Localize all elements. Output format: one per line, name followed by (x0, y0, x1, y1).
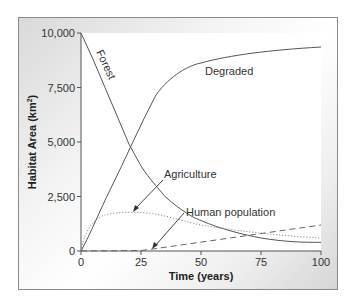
y-tick-label: 10,000 (41, 27, 75, 39)
y-tick-label: 2,500 (47, 191, 75, 203)
x-ticks: 0 25 50 75 100 (78, 251, 330, 268)
x-tick-label: 0 (78, 256, 84, 268)
y-tick-label: 0 (69, 245, 75, 257)
x-axis-title: Time (years) (169, 270, 234, 282)
x-tick-label: 75 (255, 256, 267, 268)
arrow-agriculture (133, 180, 163, 212)
y-tick-label: 5,000 (47, 136, 75, 148)
label-forest: Forest (94, 48, 118, 81)
arrow-human-population (152, 213, 184, 249)
x-tick-label: 25 (135, 256, 147, 268)
line-chart: 0 2,500 5,000 7,500 10,000 0 25 50 75 10… (0, 0, 355, 307)
y-tick-label: 7,500 (47, 82, 75, 94)
y-ticks: 0 2,500 5,000 7,500 10,000 (41, 27, 81, 257)
x-tick-label: 50 (195, 256, 207, 268)
y-axis-title: Habitat Area (km2) (26, 94, 38, 189)
series-human-population (81, 225, 321, 251)
series-agriculture (81, 212, 321, 251)
label-degraded: Degraded (205, 65, 253, 77)
label-agriculture: Agriculture (164, 168, 217, 180)
label-human-population: Human population (186, 206, 275, 218)
x-tick-label: 100 (312, 256, 330, 268)
